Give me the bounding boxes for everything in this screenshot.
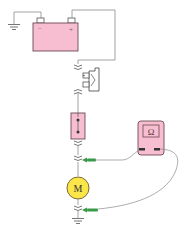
battery-positive-terminal: [68, 18, 75, 23]
meter-jack-left: [139, 148, 145, 151]
probe-black-lead-wire: [98, 149, 178, 209]
battery-neg-label: −: [38, 25, 42, 33]
ohm-label: Ω: [148, 127, 155, 137]
motor: M: [67, 177, 89, 199]
ground-symbol-bottom: [72, 211, 84, 224]
probe-red-lead: [82, 150, 140, 163]
battery-pos-label: +: [69, 26, 73, 34]
connector-4: [74, 156, 82, 161]
meter-jack-right: [154, 148, 160, 151]
connector-3: [74, 141, 82, 146]
connector-1: [74, 65, 82, 70]
connector-5: [74, 206, 82, 211]
probe-black-lead: [82, 208, 98, 213]
circuit-diagram: − +: [0, 0, 183, 232]
battery: − +: [33, 18, 78, 51]
battery-negative-terminal: [37, 18, 44, 23]
relay: [83, 68, 99, 91]
multimeter: Ω: [138, 121, 164, 155]
fuse-block: [71, 113, 85, 139]
motor-label: M: [74, 183, 83, 194]
